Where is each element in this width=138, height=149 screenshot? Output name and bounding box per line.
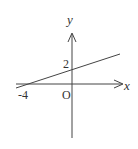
x-intercept-label: -4 bbox=[18, 88, 28, 102]
y-axis-label: y bbox=[65, 12, 73, 27]
origin-label: O bbox=[62, 88, 71, 102]
coordinate-diagram: y x 2 O -4 bbox=[0, 0, 138, 149]
y-intercept-label: 2 bbox=[63, 57, 69, 71]
x-axis-label: x bbox=[123, 78, 130, 93]
